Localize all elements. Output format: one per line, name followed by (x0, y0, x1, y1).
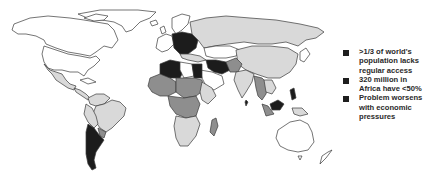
tasmania (298, 156, 302, 160)
scandinavia (172, 14, 190, 34)
bullet-text: Problem worsens with economic pressures (359, 93, 422, 121)
balkans-turkey (180, 54, 206, 62)
uk (160, 26, 166, 34)
bullet-item: >1/3 of world's population lacks regular… (341, 47, 445, 75)
bullet-square-icon (343, 50, 349, 56)
bullet-item: 320 million in Africa have <50% (341, 75, 445, 94)
new-zealand (320, 150, 332, 164)
bullet-item: Problem worsens with economic pressures (341, 93, 445, 121)
philippines (290, 88, 296, 100)
australia (276, 120, 314, 152)
india (234, 70, 254, 98)
sahel-east (176, 78, 204, 98)
legend-bullets: >1/3 of world's population lacks regular… (341, 47, 445, 121)
bullet-text: 320 million in Africa have <50% (359, 75, 422, 94)
western-europe (156, 34, 174, 52)
japan (300, 48, 310, 62)
world-map (0, 0, 340, 184)
bullet-square-icon (343, 96, 349, 102)
sri-lanka (245, 100, 248, 106)
bullet-square-icon (343, 78, 349, 84)
cuba (80, 78, 96, 84)
indochina (264, 80, 276, 94)
central-america (74, 88, 90, 100)
new-guinea (292, 108, 308, 116)
madagascar (210, 118, 218, 136)
world-map-svg (0, 0, 340, 184)
kazakhstan-central-asia (204, 46, 240, 58)
indonesia-dark (270, 100, 284, 110)
southern-africa (174, 116, 200, 146)
bullet-text: >1/3 of world's population lacks regular… (359, 47, 419, 75)
canada-alaska (12, 16, 118, 56)
egypt (192, 64, 202, 78)
russia (190, 16, 324, 48)
iceland (150, 20, 158, 26)
central-africa (168, 96, 200, 118)
